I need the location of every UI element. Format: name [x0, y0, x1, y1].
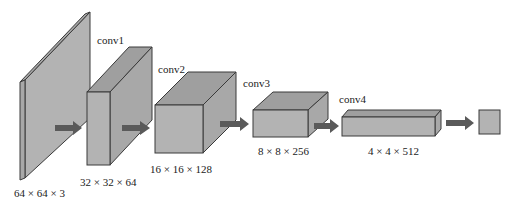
conv4-block-front	[342, 117, 435, 136]
conv4-block-top	[342, 110, 441, 117]
conv2-name-label: conv2	[158, 63, 185, 75]
arrow-conv4-to-output	[446, 116, 474, 130]
input-shape-label: 64 × 64 × 3	[14, 187, 65, 199]
conv1-name-label: conv1	[97, 34, 124, 46]
conv2-shape-label: 16 × 16 × 128	[150, 163, 212, 175]
conv3-block-front	[253, 110, 308, 137]
conv4-name-label: conv4	[339, 93, 366, 105]
input-block-face	[25, 12, 90, 178]
layer-conv4-block	[342, 110, 441, 136]
conv1-block-front	[87, 92, 110, 165]
input-block-side	[20, 80, 25, 180]
layer-input-block	[20, 12, 90, 180]
conv1-shape-label: 32 × 32 × 64	[80, 176, 137, 188]
layer-conv3-block	[253, 92, 328, 137]
layer-conv2-block	[155, 72, 236, 153]
conv3-name-label: conv3	[243, 77, 270, 89]
cnn-diagram: conv1 conv2 conv3 conv4 64 × 64 × 3 32 ×…	[0, 0, 515, 210]
conv3-shape-label: 8 × 8 × 256	[258, 145, 309, 157]
layer-conv1-block	[87, 47, 152, 165]
conv2-block-front	[155, 105, 203, 153]
layer-output-block	[479, 110, 500, 134]
conv4-shape-label: 4 × 4 × 512	[368, 145, 419, 157]
